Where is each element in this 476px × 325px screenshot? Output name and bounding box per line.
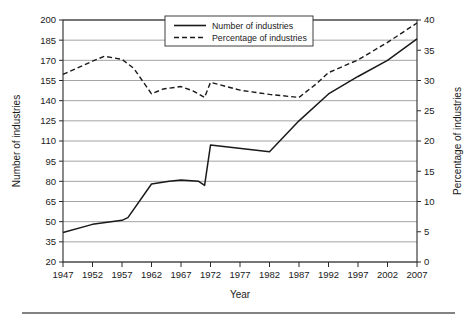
y2-axis-title: Percentage of industries — [452, 87, 463, 195]
y2-tick-label: 40 — [424, 14, 435, 25]
chart-figure: 203550658095110125140155170185200 051015… — [0, 0, 476, 325]
y-tick-label: 110 — [41, 135, 56, 146]
x-tick-label: 1972 — [200, 269, 221, 280]
x-tick-label: 1967 — [170, 269, 191, 280]
y2-tick-label: 15 — [424, 166, 435, 177]
y-tick-label: 140 — [40, 95, 56, 106]
y2-tick-label: 10 — [424, 196, 435, 207]
chart-legend: Number of industries Percentage of indus… — [165, 16, 313, 46]
y-tick-label: 200 — [40, 14, 56, 25]
y-tick-label: 80 — [45, 176, 56, 187]
legend-label-percentage-of-industries: Percentage of industries — [212, 33, 307, 43]
y2-tick-label: 5 — [424, 226, 429, 237]
y2-tick-label: 0 — [424, 256, 429, 267]
y-tick-label: 185 — [40, 35, 56, 46]
x-tick-label: 2002 — [377, 269, 398, 280]
y-tick-label: 50 — [45, 216, 56, 227]
x-tick-label: 1977 — [229, 269, 250, 280]
x-tick-label: 1952 — [82, 269, 103, 280]
y2-tick-label: 25 — [424, 105, 435, 116]
x-tick-label: 1947 — [52, 269, 73, 280]
x-tick-label: 2007 — [406, 269, 427, 280]
legend-label-number-of-industries: Number of industries — [212, 21, 294, 31]
x-tick-label: 1997 — [347, 269, 368, 280]
y-tick-label: 20 — [45, 256, 56, 267]
y-tick-label: 155 — [40, 75, 56, 86]
y-axis-title: Number of industries — [11, 95, 22, 187]
x-tick-label: 1962 — [141, 269, 162, 280]
x-tick-label: 1982 — [259, 269, 280, 280]
x-axis-title: Year — [230, 289, 251, 300]
x-tick-label: 1987 — [288, 269, 309, 280]
y2-tick-label: 30 — [424, 75, 435, 86]
y-tick-label: 35 — [45, 236, 56, 247]
y-tick-label: 65 — [45, 196, 56, 207]
x-tick-label: 1992 — [318, 269, 339, 280]
y-tick-label: 125 — [40, 115, 56, 126]
y2-tick-label: 20 — [424, 135, 435, 146]
y-tick-label: 170 — [40, 55, 56, 66]
y-tick-label: 95 — [45, 156, 56, 167]
x-tick-label: 1957 — [111, 269, 132, 280]
y2-tick-label: 35 — [424, 45, 435, 56]
line-chart: 203550658095110125140155170185200 051015… — [0, 0, 476, 325]
